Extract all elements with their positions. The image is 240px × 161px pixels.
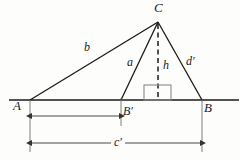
dimension-label-cprime: c′ bbox=[111, 136, 125, 148]
geometry-figure: A B C B′ b a h d′ c′ bbox=[0, 0, 240, 161]
side-label-a: a bbox=[127, 56, 133, 68]
side-label-b: b bbox=[84, 41, 90, 53]
side-label-dprime: d′ bbox=[186, 55, 195, 67]
vertex-label-C: C bbox=[154, 1, 163, 14]
vertex-label-Bprime: B′ bbox=[123, 105, 133, 117]
side-label-h: h bbox=[163, 59, 169, 71]
vertex-label-B: B bbox=[204, 101, 212, 114]
vertex-label-A: A bbox=[13, 99, 21, 112]
